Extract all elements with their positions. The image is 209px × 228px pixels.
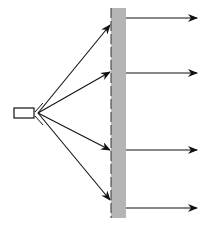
wall-body xyxy=(111,8,126,218)
diagram-canvas xyxy=(0,0,209,228)
output-rays xyxy=(126,18,197,208)
incident-ray-arrow-3 xyxy=(38,113,110,150)
incident-ray-arrow-1 xyxy=(38,25,110,113)
incident-ray-arrow-4 xyxy=(38,113,110,200)
incident-rays xyxy=(38,25,110,200)
incident-ray-arrow-2 xyxy=(38,72,110,113)
source-box xyxy=(14,108,34,118)
wall xyxy=(111,8,126,218)
